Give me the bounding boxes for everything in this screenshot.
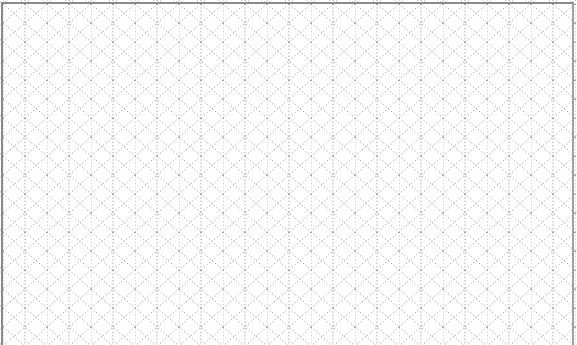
page-border bbox=[1, 2, 574, 345]
grid-paper-page bbox=[0, 0, 577, 345]
